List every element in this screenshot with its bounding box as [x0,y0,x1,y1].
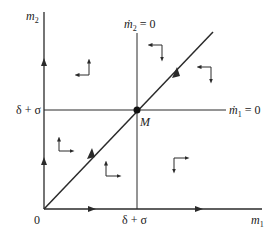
x-axis-arrow-right [195,206,203,212]
y-axis-arrow-lower [41,157,47,165]
origin-label: 0 [34,213,40,227]
m1-nullcline-label: ṁ1 = 0 [229,103,260,119]
region-arrows-upper-middle [150,45,162,59]
phase-diagram: m2 m1 0 δ + σ δ + σ ṁ2 = 0 ṁ1 = 0 M [0,0,277,234]
equilibrium-point [134,107,141,114]
equilibrium-label: M [139,115,151,129]
x-axis-label: m1 [251,213,264,229]
x-axis-arrow-left [88,206,96,212]
m2-nullcline-label: ṁ2 = 0 [124,17,155,33]
diagonal-trajectory [44,32,213,209]
y-axis-label: m2 [26,9,39,25]
region-arrows-lower-right [174,158,187,171]
threshold-y-label: δ + σ [16,103,41,117]
region-arrows-lower-middle [106,163,119,176]
region-arrows-upper-right [199,67,211,81]
region-arrows-upper-left [77,61,89,75]
y-axis-arrow-upper [41,58,47,66]
region-arrows-lower-left [59,139,72,151]
threshold-x-label: δ + σ [122,213,147,227]
